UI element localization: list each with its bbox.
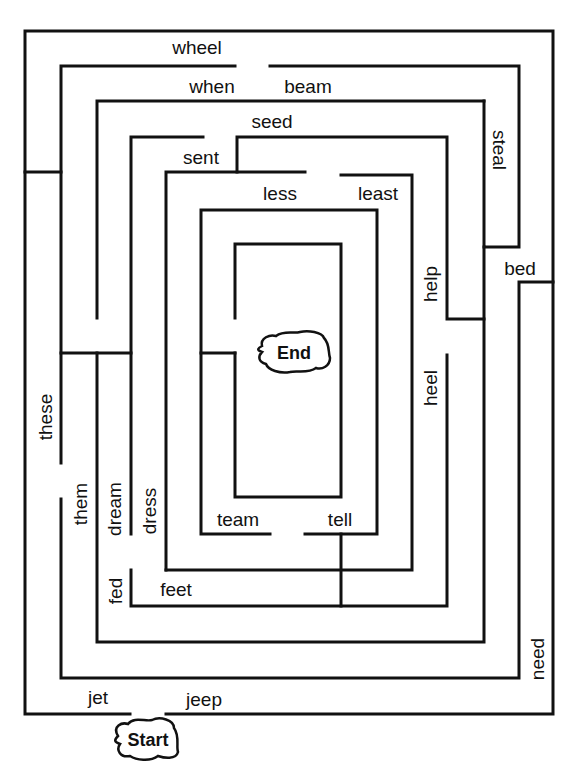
word-beam: beam bbox=[284, 77, 332, 96]
word-seed: seed bbox=[251, 112, 292, 131]
word-jet: jet bbox=[88, 688, 108, 707]
word-need: need bbox=[528, 638, 547, 680]
ring2-wall bbox=[61, 66, 235, 463]
word-team: team bbox=[217, 510, 259, 529]
word-dream: dream bbox=[105, 482, 124, 536]
start-label: Start bbox=[127, 730, 168, 751]
word-them: them bbox=[71, 483, 90, 525]
fed-wall bbox=[131, 355, 447, 606]
end-label: End bbox=[277, 343, 311, 364]
word-help: help bbox=[421, 266, 440, 302]
word-feet: feet bbox=[160, 580, 192, 599]
word-sent: sent bbox=[183, 148, 219, 167]
word-when: when bbox=[189, 77, 234, 96]
word-least: least bbox=[358, 184, 398, 203]
word-tell: tell bbox=[328, 510, 352, 529]
seed-wall bbox=[237, 137, 484, 319]
word-these: these bbox=[36, 394, 55, 440]
word-jeep: jeep bbox=[186, 690, 222, 709]
ring3-wall-bottom bbox=[97, 247, 484, 642]
word-steal: steal bbox=[490, 130, 509, 170]
word-less: less bbox=[263, 184, 297, 203]
word-bed: bed bbox=[504, 259, 536, 278]
word-wheel: wheel bbox=[172, 38, 222, 57]
word-fed: fed bbox=[106, 578, 125, 604]
word-dress: dress bbox=[140, 488, 159, 534]
word-heel: heel bbox=[421, 370, 440, 406]
